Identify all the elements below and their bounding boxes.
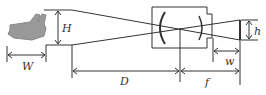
- label-w: w: [225, 55, 234, 68]
- front-lens: [160, 12, 165, 44]
- label-H: H: [62, 22, 72, 35]
- rear-lens: [199, 16, 202, 40]
- camera-geometry-diagram: [0, 0, 266, 95]
- label-D: D: [120, 75, 129, 88]
- label-f: f: [205, 76, 209, 89]
- hand-icon: [8, 14, 46, 40]
- label-W: W: [22, 60, 33, 73]
- label-h: h: [254, 25, 261, 38]
